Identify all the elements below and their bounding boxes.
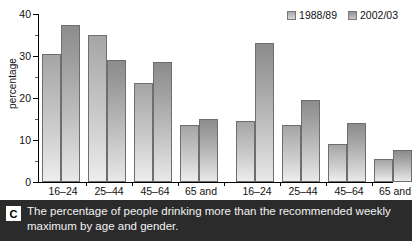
bar-females-65-over-2002-03[interactable]	[393, 150, 412, 182]
bar-females-16-24-1988-89[interactable]	[236, 121, 255, 182]
y-tick-label-30: 30	[5, 50, 31, 62]
bar-group-males-45-64	[134, 14, 175, 182]
figure-label-badge: C	[6, 206, 21, 221]
legend-label: 2002/03	[360, 9, 398, 21]
y-tick-label-0: 0	[5, 176, 31, 188]
bar-group-females-16-24	[236, 14, 277, 182]
bar-males-25-44-2002-03[interactable]	[107, 60, 126, 182]
legend-swatch-icon	[287, 11, 296, 20]
bar-females-25-44-2002-03[interactable]	[301, 100, 320, 182]
x-axis-line	[38, 182, 393, 183]
legend-item-1988-89[interactable]: 1988/89	[287, 9, 337, 21]
figure-caption-bar: C The percentage of people drinking more…	[0, 200, 412, 241]
figure-caption-text: The percentage of people drinking more t…	[27, 204, 404, 234]
x-label-line1: 65 and	[364, 186, 412, 198]
bar-females-25-44-1988-89[interactable]	[282, 125, 301, 182]
bar-group-females-25-44	[282, 14, 323, 182]
chart-legend: 1988/89 2002/03	[287, 9, 398, 21]
bar-males-65-over-1988-89[interactable]	[180, 125, 199, 182]
bar-females-45-64-1988-89[interactable]	[328, 144, 347, 182]
x-label-line1: 65 and	[170, 186, 232, 198]
plot-area	[38, 14, 393, 182]
bar-females-65-over-1988-89[interactable]	[374, 159, 393, 182]
bar-males-25-44-1988-89[interactable]	[88, 35, 107, 182]
y-axis-tick-labels: 40 30 20 10 0	[0, 0, 31, 198]
y-tick-label-40: 40	[5, 8, 31, 20]
bar-chart: percentage 40 30 20 10 0	[0, 0, 412, 198]
figure-panel: percentage 40 30 20 10 0	[0, 0, 412, 241]
legend-item-2002-03[interactable]: 2002/03	[348, 9, 398, 21]
bar-group-males-65-over	[180, 14, 221, 182]
bar-group-females-65-over	[374, 14, 412, 182]
bar-group-males-16-24	[42, 14, 83, 182]
bar-males-16-24-1988-89[interactable]	[42, 54, 61, 182]
bar-males-45-64-1988-89[interactable]	[134, 83, 153, 182]
legend-label: 1988/89	[299, 9, 337, 21]
bar-males-16-24-2002-03[interactable]	[61, 25, 80, 182]
y-tick-label-20: 20	[5, 92, 31, 104]
bar-females-45-64-2002-03[interactable]	[347, 123, 366, 182]
legend-swatch-icon	[348, 11, 357, 20]
bar-females-16-24-2002-03[interactable]	[255, 43, 274, 182]
y-tick-label-10: 10	[5, 134, 31, 146]
bar-males-65-over-2002-03[interactable]	[199, 119, 218, 182]
bar-males-45-64-2002-03[interactable]	[153, 62, 172, 182]
bar-group-males-25-44	[88, 14, 129, 182]
bar-group-females-45-64	[328, 14, 369, 182]
